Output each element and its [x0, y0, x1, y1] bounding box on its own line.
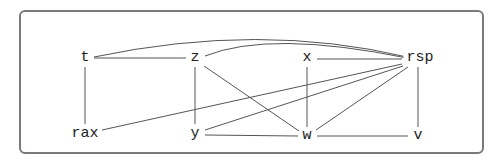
edge-rsp-rax: [102, 64, 402, 130]
node-t: t: [77, 50, 92, 66]
node-rsp: rsp: [403, 50, 436, 66]
node-w: w: [299, 128, 314, 144]
edge-rsp-w: [316, 67, 408, 130]
edge-y-w: [205, 135, 298, 136]
edge-rsp-y: [205, 66, 403, 130]
node-x: x: [299, 50, 314, 66]
node-y: y: [187, 126, 202, 142]
node-rax: rax: [68, 126, 101, 142]
edge-z-w: [204, 66, 299, 131]
node-v: v: [410, 128, 425, 144]
edge-t-rsp: [94, 40, 407, 58]
node-z: z: [187, 50, 202, 66]
